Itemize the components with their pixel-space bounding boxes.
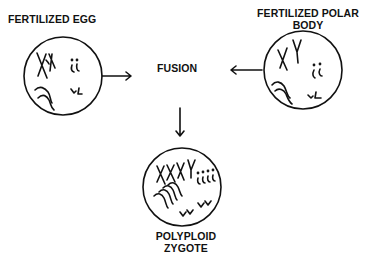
diagram-canvas <box>0 0 366 255</box>
arrow-polar-body-to-fusion <box>231 66 262 74</box>
fertilized-egg-cell <box>24 37 102 115</box>
polyploid-zygote-cell <box>143 148 221 226</box>
fertilized-polar-body-cell <box>264 31 342 109</box>
arrow-egg-to-fusion <box>102 72 131 80</box>
arrow-fusion-to-zygote <box>176 108 184 136</box>
